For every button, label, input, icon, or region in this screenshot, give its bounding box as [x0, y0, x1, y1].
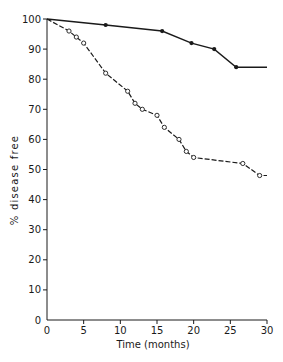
survival-chart: 0102030405060708090100051015202530 Time …: [0, 0, 283, 362]
x-tick-label: 25: [224, 325, 237, 336]
data-point: [104, 23, 108, 27]
series-open-circles: [47, 19, 267, 178]
series-line: [47, 19, 267, 67]
data-point: [234, 65, 238, 69]
y-tick-label: 100: [22, 14, 41, 25]
y-tick-label: 70: [28, 104, 41, 115]
x-tick-label: 10: [114, 325, 127, 336]
x-tick-label: 20: [187, 325, 200, 336]
x-tick-label: 15: [151, 325, 164, 336]
data-point: [155, 113, 159, 117]
y-tick-label: 50: [28, 164, 41, 175]
series-layer: [47, 19, 267, 178]
y-axis-label: % disease free: [9, 135, 20, 225]
y-tick-label: 30: [28, 224, 41, 235]
data-point: [67, 29, 71, 33]
data-point: [160, 29, 164, 33]
x-tick-label: 0: [44, 325, 50, 336]
series-filled-circles: [47, 19, 267, 69]
y-tick-label: 90: [28, 44, 41, 55]
data-point: [212, 47, 216, 51]
data-point: [189, 41, 193, 45]
data-point: [241, 161, 245, 165]
axes: 0102030405060708090100051015202530: [22, 14, 273, 337]
x-tick-label: 5: [80, 325, 86, 336]
series-line: [47, 19, 267, 176]
y-tick-label: 40: [28, 194, 41, 205]
x-tick-label: 30: [261, 325, 274, 336]
data-point: [184, 149, 188, 153]
data-point: [74, 35, 78, 39]
data-point: [140, 107, 144, 111]
x-axis-label: Time (months): [115, 339, 189, 350]
y-tick-label: 20: [28, 254, 41, 265]
y-tick-label: 60: [28, 134, 41, 145]
data-point: [126, 89, 130, 93]
data-point: [192, 155, 196, 159]
data-point: [162, 125, 166, 129]
data-point: [82, 41, 86, 45]
data-point: [258, 173, 262, 177]
y-tick-label: 0: [35, 315, 41, 326]
data-point: [133, 101, 137, 105]
data-point: [104, 71, 108, 75]
y-tick-label: 80: [28, 74, 41, 85]
data-point: [177, 137, 181, 141]
y-tick-label: 10: [28, 284, 41, 295]
